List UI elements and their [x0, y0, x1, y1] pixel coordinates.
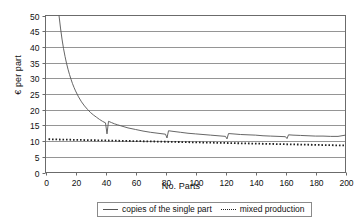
grid-lines — [46, 32, 346, 158]
y-tick-label: 25 — [30, 90, 40, 100]
solid-line-swatch-icon — [103, 209, 118, 210]
y-tick-label: 50 — [30, 12, 40, 22]
legend-item-copies-of-the-single-part: copies of the single part — [103, 205, 212, 214]
legend-item-mixed-production: mixed production — [221, 205, 305, 214]
data-series-lines — [49, 16, 346, 146]
tick-marks — [43, 17, 347, 176]
plot-frame — [46, 16, 346, 173]
y-tick-label: 0 — [35, 169, 40, 179]
y-tick-label: 45 — [30, 27, 40, 37]
series-line-0 — [59, 16, 346, 139]
y-tick-label: 20 — [30, 106, 40, 116]
series-line-1 — [49, 139, 346, 145]
y-tick-label: 35 — [30, 59, 40, 69]
y-tick-label: 5 — [35, 153, 40, 163]
legend-label-mixed: mixed production — [240, 205, 305, 214]
y-tick-label: 15 — [30, 121, 40, 131]
chart-figure: 05101520253035404550 0204060801001201401… — [0, 0, 362, 224]
y-tick-label: 30 — [30, 74, 40, 84]
x-axis-title: No. Parts — [0, 181, 362, 191]
chart-legend: copies of the single part mixed producti… — [97, 202, 312, 217]
y-tick-label: 10 — [30, 137, 40, 147]
y-axis-title: € per part — [13, 35, 23, 115]
legend-label-copies: copies of the single part — [122, 205, 212, 214]
y-axis-tick-labels: 05101520253035404550 — [30, 12, 40, 179]
dotted-line-swatch-icon — [221, 209, 236, 210]
y-tick-label: 40 — [30, 43, 40, 53]
